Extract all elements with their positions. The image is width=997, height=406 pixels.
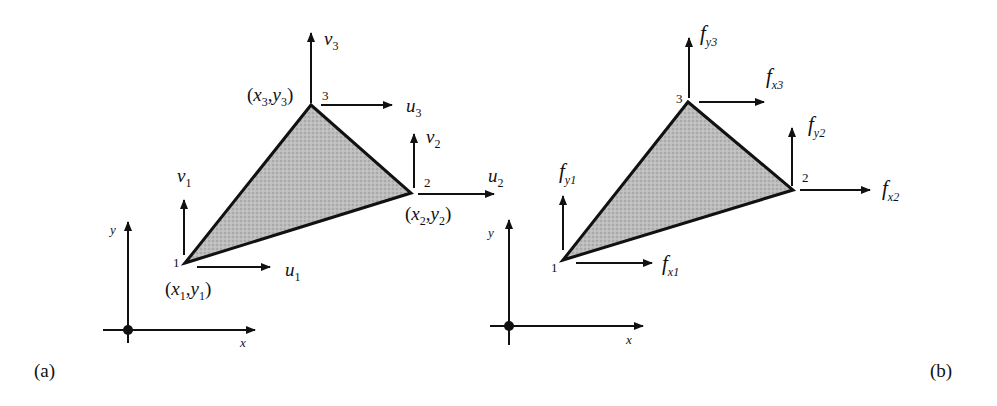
node-3-number: 3 xyxy=(322,88,329,103)
node-1-number: 1 xyxy=(551,260,558,275)
y-axis-label: y xyxy=(108,222,116,237)
node-3-number: 3 xyxy=(676,91,683,106)
fx1-label: fx1 xyxy=(662,251,679,279)
fy1-label: fy1 xyxy=(559,159,576,187)
u1-label: u1 xyxy=(285,259,301,284)
v2-label: v2 xyxy=(426,126,440,151)
origin-dot xyxy=(123,325,133,335)
fy3-label: fy3 xyxy=(700,21,717,49)
node-3-b: 3 fx3 fy3 xyxy=(676,21,783,106)
triangle-element-diagram: x y 1 u1 v1 (x1,y1) 2 u2 v2 (x2,y2) 3 xyxy=(0,0,997,406)
coord-label-node-3: (x3,y3) xyxy=(247,84,293,109)
node-3-a: 3 u3 v3 (x3,y3) xyxy=(247,28,422,120)
panel-a: x y 1 u1 v1 (x1,y1) 2 u2 v2 (x2,y2) 3 xyxy=(34,28,504,382)
x-axis-label: x xyxy=(625,332,632,347)
u3-label: u3 xyxy=(406,95,422,120)
x-axis-label: x xyxy=(239,335,246,350)
triangle-element-b xyxy=(563,102,793,260)
node-1-number: 1 xyxy=(173,255,180,270)
coord-label-node-1: (x1,y1) xyxy=(165,278,211,303)
v1-label: v1 xyxy=(177,165,191,190)
node-2-b: 2 fx2 fy2 xyxy=(792,112,899,204)
node-2-number: 2 xyxy=(802,170,809,185)
u2-label: u2 xyxy=(488,165,504,190)
v3-label: v3 xyxy=(324,28,338,53)
y-axis-label: y xyxy=(486,225,494,240)
coord-label-node-2: (x2,y2) xyxy=(405,203,451,228)
node-2-number: 2 xyxy=(424,175,431,190)
panel-b: x y 1 fx1 fy1 2 fx2 fy2 3 fx3 fy3 xyxy=(486,21,952,382)
fx3-label: fx3 xyxy=(766,64,783,92)
panel-a-caption: (a) xyxy=(34,360,55,382)
fx2-label: fx2 xyxy=(882,176,899,204)
triangle-element-a xyxy=(185,105,411,263)
node-2-a: 2 u2 v2 (x2,y2) xyxy=(405,126,504,228)
panel-b-caption: (b) xyxy=(930,360,952,382)
fy2-label: fy2 xyxy=(808,112,825,140)
origin-dot xyxy=(504,321,514,331)
